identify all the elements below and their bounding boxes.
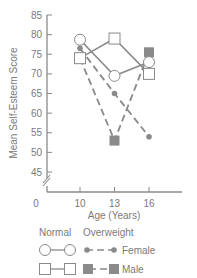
legend: Normal Overweight Female Male — [39, 227, 156, 275]
x-tick-label: 13 — [109, 198, 121, 209]
y-axis: 858075706560555045 — [31, 10, 52, 193]
filled-circle-marker — [84, 247, 90, 253]
x-tick-label: 10 — [74, 198, 86, 209]
y-tick-label: 60 — [31, 108, 43, 119]
y-tick-label: 65 — [31, 88, 43, 99]
open-circle-marker — [144, 57, 155, 68]
filled-square-marker — [109, 264, 119, 274]
open-circle-marker — [75, 34, 86, 45]
filled-circle-marker — [111, 247, 117, 253]
x-tick-label: 0 — [33, 198, 39, 209]
filled-square-marker — [144, 47, 154, 57]
plot-series — [75, 33, 155, 146]
legend-label-female: Female — [122, 245, 156, 256]
open-circle-marker — [65, 245, 76, 256]
y-tick-label: 85 — [31, 10, 43, 21]
filled-circle-marker — [77, 46, 83, 52]
open-circle-marker — [109, 70, 120, 81]
legend-header-overweight: Overweight — [83, 227, 134, 238]
y-tick-label: 50 — [31, 147, 43, 158]
y-tick-label: 45 — [31, 167, 43, 178]
y-tick-label: 70 — [31, 68, 43, 79]
open-square-marker — [109, 33, 120, 44]
open-square-marker — [75, 53, 86, 64]
y-axis-label: Mean Self-Esteem Score — [8, 47, 19, 159]
x-tick-label: 16 — [143, 198, 155, 209]
open-circle-marker — [40, 245, 51, 256]
legend-label-male: Male — [122, 264, 144, 275]
y-tick-label: 80 — [31, 29, 43, 40]
x-axis-label: Age (Years) — [88, 210, 140, 221]
open-square-marker — [40, 264, 51, 275]
filled-circle-marker — [112, 91, 118, 97]
x-axis: 0101316 — [33, 187, 182, 209]
open-square-marker — [65, 264, 76, 275]
open-square-marker — [144, 68, 155, 79]
legend-header-normal: Normal — [39, 227, 71, 238]
line-chart: 858075706560555045 0101316 Mean Self-Est… — [0, 0, 197, 278]
y-tick-label: 55 — [31, 127, 43, 138]
filled-square-marker — [110, 136, 120, 146]
filled-square-marker — [83, 264, 93, 274]
filled-circle-marker — [146, 134, 152, 140]
y-tick-label: 75 — [31, 49, 43, 60]
